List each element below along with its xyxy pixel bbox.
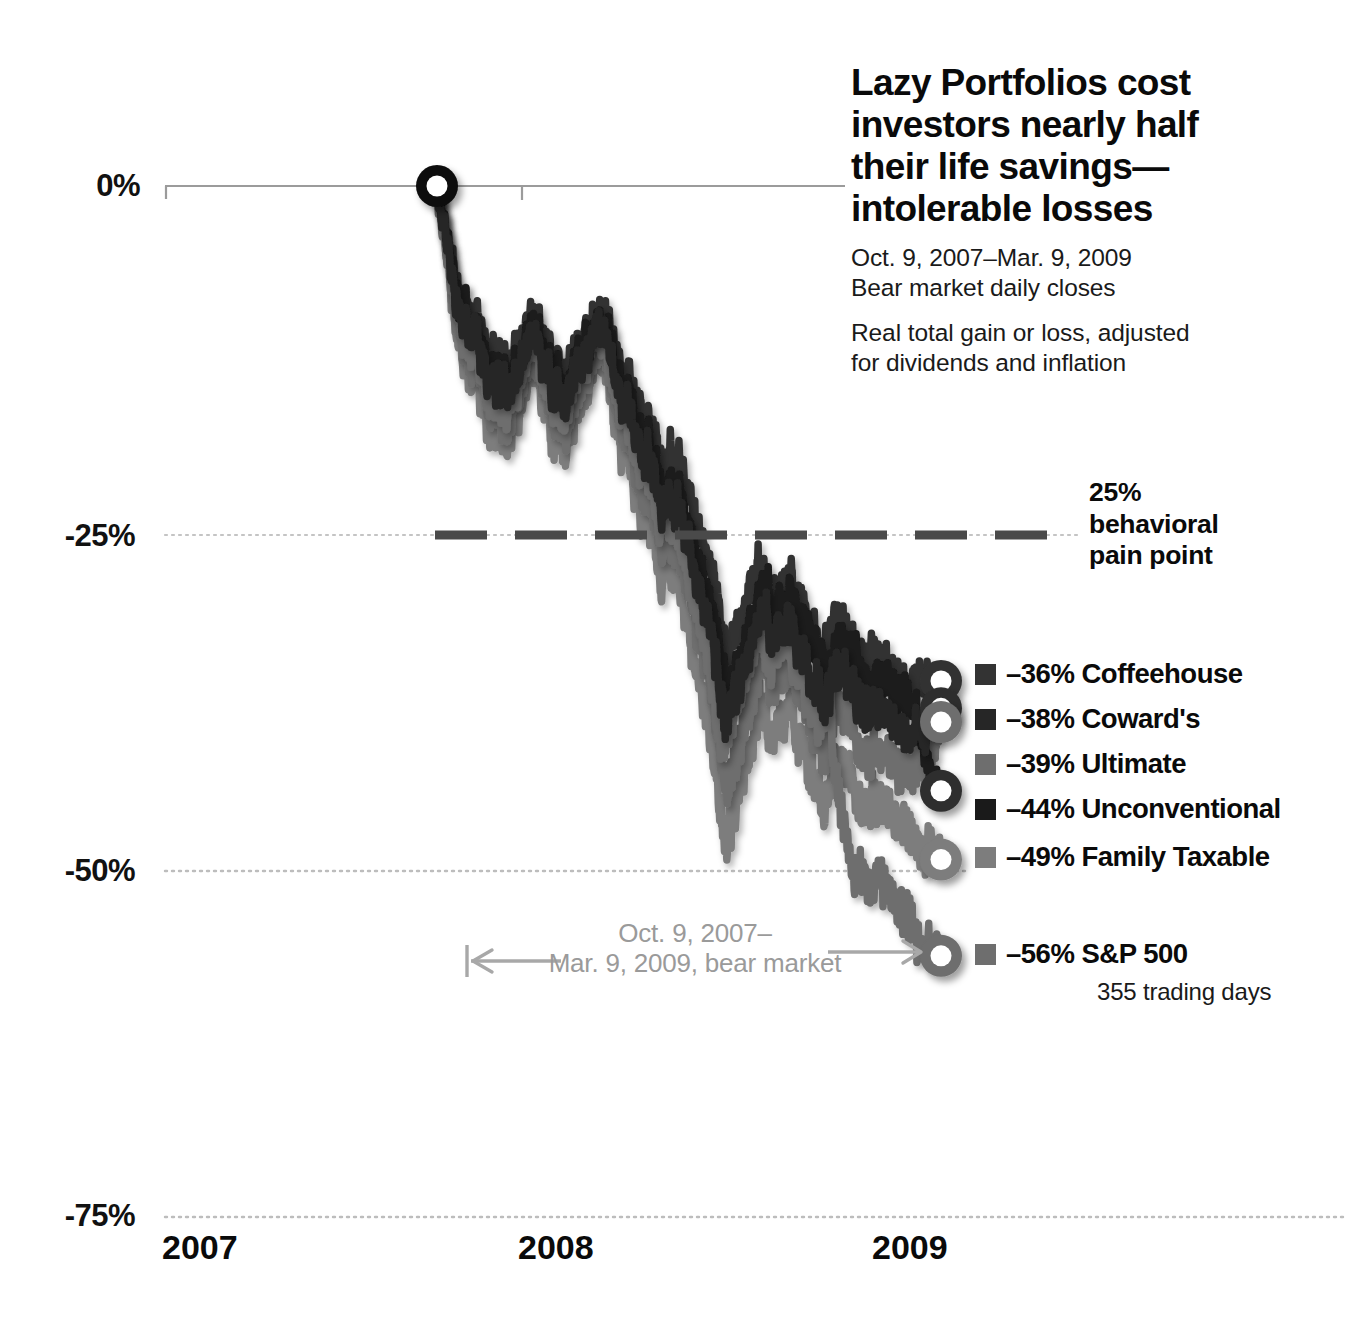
trading-days-note: 355 trading days [1097,978,1271,1006]
chart-subtitle-method: Real total gain or loss, adjusted for di… [851,318,1321,378]
chart-figure: 0% -25% -50% -75% 2007 2008 2009 Lazy Po… [0,0,1351,1342]
legend-swatch-family-taxable [975,847,996,868]
legend-label-ultimate: –39% Ultimate [1006,748,1186,780]
pain-point-annotation: 25% behavioral pain point [1089,477,1319,572]
end-marker-ultimate [920,701,962,743]
legend-sp500-group: –56% S&P 500 355 trading days [975,938,1351,970]
y-axis-label-75: -75% [15,1198,135,1234]
start-marker [416,165,458,207]
legend-swatch-ultimate [975,754,996,775]
legend-label-cowards: –38% Coward's [1006,703,1200,735]
legend-label-sp500: –56% S&P 500 [1006,938,1188,970]
legend-item-ultimate[interactable]: –39% Ultimate [975,748,1186,780]
legend-item-coffeehouse[interactable]: –36% Coffeehouse [975,658,1243,690]
title-block: Lazy Portfolios cost investors nearly ha… [851,62,1321,378]
chart-headline: Lazy Portfolios cost investors nearly ha… [851,62,1321,230]
y-axis-label-50: -50% [15,853,135,889]
legend-item-unconventional[interactable]: –44% Unconventional [975,793,1281,825]
legend-label-coffeehouse: –36% Coffeehouse [1006,658,1243,690]
legend-swatch-coffeehouse [975,664,996,685]
x-axis-label-2009: 2009 [872,1228,948,1267]
y-axis-label-25: -25% [15,518,135,554]
legend-label-family-taxable: –49% Family Taxable [1006,841,1270,873]
end-marker-unconventional [920,770,962,812]
x-axis-label-2007: 2007 [162,1228,238,1267]
y-axis-label-0: 0% [20,168,140,204]
x-axis-label-2008: 2008 [518,1228,594,1267]
legend-label-unconventional: –44% Unconventional [1006,793,1281,825]
legend-item-cowards[interactable]: –38% Coward's [975,703,1200,735]
bear-market-label: Oct. 9, 2007– Mar. 9, 2009, bear market [455,918,935,978]
legend-swatch-sp500 [975,944,996,965]
chart-subtitle-period: Oct. 9, 2007–Mar. 9, 2009 Bear market da… [851,243,1321,303]
legend-item-sp500[interactable]: –56% S&P 500 [975,938,1351,970]
end-marker-family-taxable [920,839,962,881]
legend-item-family-taxable[interactable]: –49% Family Taxable [975,841,1270,873]
legend-swatch-cowards [975,709,996,730]
legend-swatch-unconventional [975,799,996,820]
